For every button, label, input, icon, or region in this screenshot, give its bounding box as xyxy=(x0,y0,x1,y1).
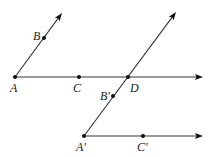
label-b: B xyxy=(33,29,41,43)
arrowhead-icon xyxy=(169,12,176,20)
label-a2: A′ xyxy=(75,140,86,154)
point-d xyxy=(126,75,130,79)
arrowhead-icon xyxy=(55,13,62,21)
point-b xyxy=(42,36,46,40)
ray-AC xyxy=(15,74,203,80)
point-a2 xyxy=(82,134,86,138)
point-c2 xyxy=(141,134,145,138)
label-a: A xyxy=(9,81,18,95)
geometry-diagram: ABCDB′A′C′ xyxy=(0,0,215,157)
point-c xyxy=(77,75,81,79)
point-a xyxy=(13,75,17,79)
label-c: C xyxy=(73,81,82,95)
point-b2 xyxy=(111,94,115,98)
label-b2: B′ xyxy=(100,89,110,103)
ray-A2B2 xyxy=(84,12,176,136)
label-c2: C′ xyxy=(137,140,148,154)
ray-AB xyxy=(15,13,62,77)
ray-line xyxy=(15,17,59,77)
label-d: D xyxy=(129,81,139,95)
